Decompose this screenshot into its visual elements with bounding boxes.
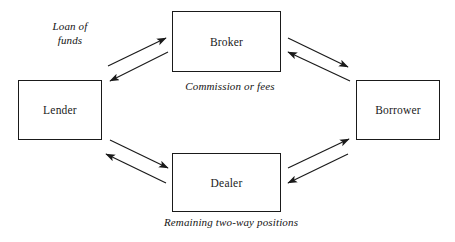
arrow-lender-broker-outbound	[108, 38, 166, 66]
edge-label-commission-or-fees: Commission or fees	[166, 80, 294, 94]
node-borrower[interactable]: Borrower	[356, 80, 440, 140]
arrow-broker-lender-inbound	[110, 52, 168, 81]
edge-label-remaining-two-way-positions: Remaining two-way positions	[141, 216, 321, 230]
node-label-broker: Broker	[210, 36, 243, 48]
arrow-borrower-broker-inbound	[288, 52, 350, 81]
arrow-dealer-lender-inbound	[106, 154, 166, 183]
arrow-dealer-borrower-outbound	[288, 139, 349, 168]
edge-label-loan-of-funds: Loan of funds	[28, 20, 112, 48]
node-label-lender: Lender	[43, 104, 77, 116]
node-lender[interactable]: Lender	[18, 80, 102, 140]
node-label-dealer: Dealer	[211, 177, 243, 189]
node-broker[interactable]: Broker	[172, 11, 281, 72]
node-dealer[interactable]: Dealer	[172, 153, 281, 212]
arrow-lender-dealer-outbound	[110, 140, 168, 168]
diagram-canvas: Lender Broker Borrower Dealer Loan of fu…	[0, 0, 455, 242]
arrow-broker-borrower-outbound	[288, 38, 348, 67]
arrow-borrower-dealer-inbound	[288, 154, 348, 183]
node-label-borrower: Borrower	[375, 104, 421, 116]
